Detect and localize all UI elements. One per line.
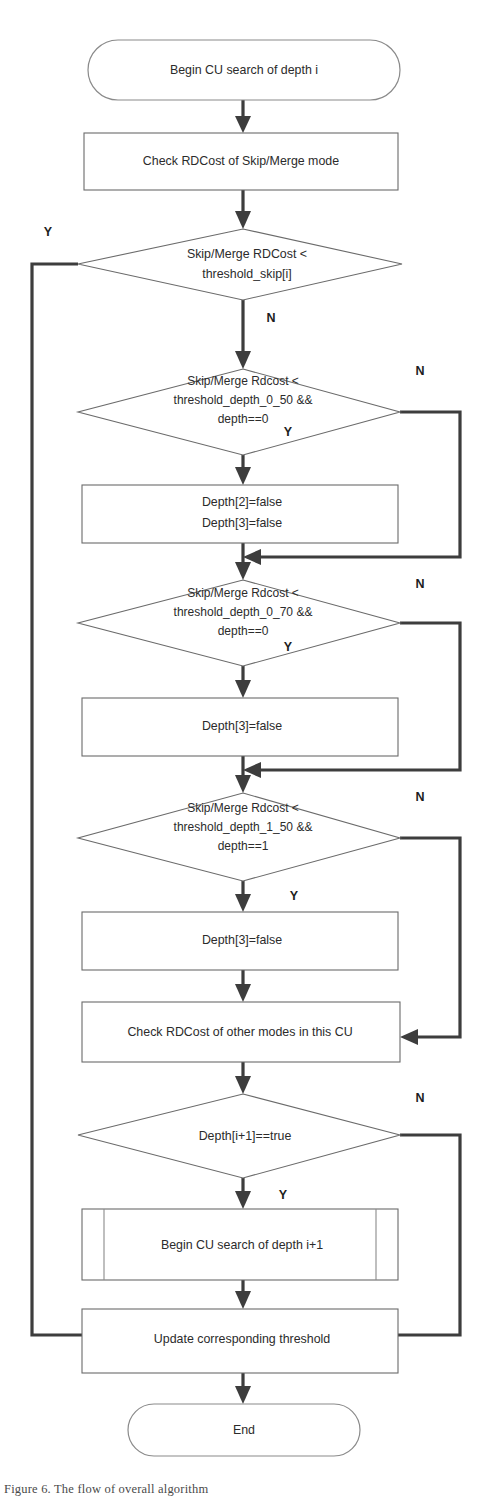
node-set-depth23-false-line2: Depth[3]=false [202,516,282,530]
branch-label-depth-next-yes: Y [279,1188,288,1202]
branch-label-d0-50-yes: Y [284,425,293,439]
connector-skip-no [235,300,251,369]
node-start[interactable]: Begin CU search of depth i [88,40,400,100]
connector-d0-70-yes [235,666,251,698]
connector-skip-yes-loop [32,264,134,1343]
node-end[interactable]: End [128,1404,360,1456]
branch-label-skip-yes: Y [44,225,53,239]
branch-label-d1-50-yes: Y [290,889,299,903]
node-set-depth23-false-line1: Depth[2]=false [202,495,282,509]
node-set-depth23-false[interactable]: Depth[2]=false Depth[3]=false [82,485,398,543]
node-decision-skip-line2: threshold_skip[i] [202,267,292,281]
connector-d1-50-no-loop [400,838,460,1045]
node-check-other-modes-label: Check RDCost of other modes in this CU [127,1025,352,1039]
connector-d1-50-yes [235,881,251,912]
node-decision-d0-50-line1: Skip/Merge Rdcost < [187,374,299,388]
figure-caption: Figure 6. The flow of overall algorithm [4,1482,208,1497]
branch-label-skip-no: N [266,311,275,325]
branch-label-d0-70-yes: Y [284,640,293,654]
node-decision-d0-70-line3: depth==0 [218,624,269,638]
branch-label-d0-70-no: N [415,577,424,591]
node-decision-d1-50[interactable]: Skip/Merge Rdcost < threshold_depth_1_50… [78,793,400,881]
flowchart-canvas: Begin CU search of depth i Check RDCost … [0,0,496,1498]
node-decision-skip[interactable]: Skip/Merge RDCost < threshold_skip[i] [78,229,402,300]
node-set-depth3-false-a[interactable]: Depth[3]=false [82,698,398,756]
node-check-other-modes[interactable]: Check RDCost of other modes in this CU [82,1002,400,1062]
node-decision-d0-50[interactable]: Skip/Merge Rdcost < threshold_depth_0_50… [78,369,400,455]
connector-check-other-to-depth-next [235,1062,251,1094]
node-decision-d0-70-line1: Skip/Merge Rdcost < [187,586,299,600]
connector-setd3a-to-d1-50 [235,756,251,793]
node-update-threshold[interactable]: Update corresponding threshold [82,1309,398,1373]
node-check-skip-merge-label: Check RDCost of Skip/Merge mode [143,154,339,168]
node-start-label: Begin CU search of depth i [170,63,318,77]
node-decision-depth-next-label: Depth[i+1]==true [199,1129,292,1143]
node-end-label: End [233,1423,255,1437]
node-recurse-subroutine[interactable]: Begin CU search of depth i+1 [82,1209,398,1280]
connector-set23-to-d0-70 [235,543,251,580]
connector-check-skip-to-decision-skip [235,190,251,229]
node-decision-skip-line1: Skip/Merge RDCost < [187,247,307,261]
branch-label-depth-next-no: N [415,1091,424,1105]
flowchart-page: Begin CU search of depth i Check RDCost … [0,0,496,1498]
node-decision-d0-70-line2: threshold_depth_0_70 && [174,605,313,619]
node-set-depth3-false-b-label: Depth[3]=false [202,933,282,947]
node-set-depth3-false-b[interactable]: Depth[3]=false [82,912,398,970]
node-decision-d1-50-line2: threshold_depth_1_50 && [174,820,313,834]
node-decision-d0-50-line2: threshold_depth_0_50 && [174,393,313,407]
branch-label-d1-50-no: N [415,790,424,804]
node-decision-depth-next[interactable]: Depth[i+1]==true [78,1094,400,1178]
node-decision-d0-50-line3: depth==0 [218,412,269,426]
branch-label-d0-50-no: N [415,364,424,378]
node-set-depth3-false-a-label: Depth[3]=false [202,719,282,733]
node-check-skip-merge[interactable]: Check RDCost of Skip/Merge mode [84,133,398,190]
node-decision-d0-70[interactable]: Skip/Merge Rdcost < threshold_depth_0_70… [78,580,400,666]
connector-depth-next-yes [235,1178,251,1209]
node-decision-d1-50-line3: depth==1 [218,839,269,853]
connector-recurse-to-update [235,1280,251,1309]
node-update-threshold-label: Update corresponding threshold [154,1332,330,1346]
connector-setd3b-to-check-other [235,970,251,1002]
node-decision-d1-50-line1: Skip/Merge Rdcost < [187,801,299,815]
connector-update-to-end [235,1373,251,1404]
connector-d0-50-yes [235,455,251,485]
connector-start-to-check-skip [235,100,251,133]
node-recurse-subroutine-label: Begin CU search of depth i+1 [161,1238,323,1252]
